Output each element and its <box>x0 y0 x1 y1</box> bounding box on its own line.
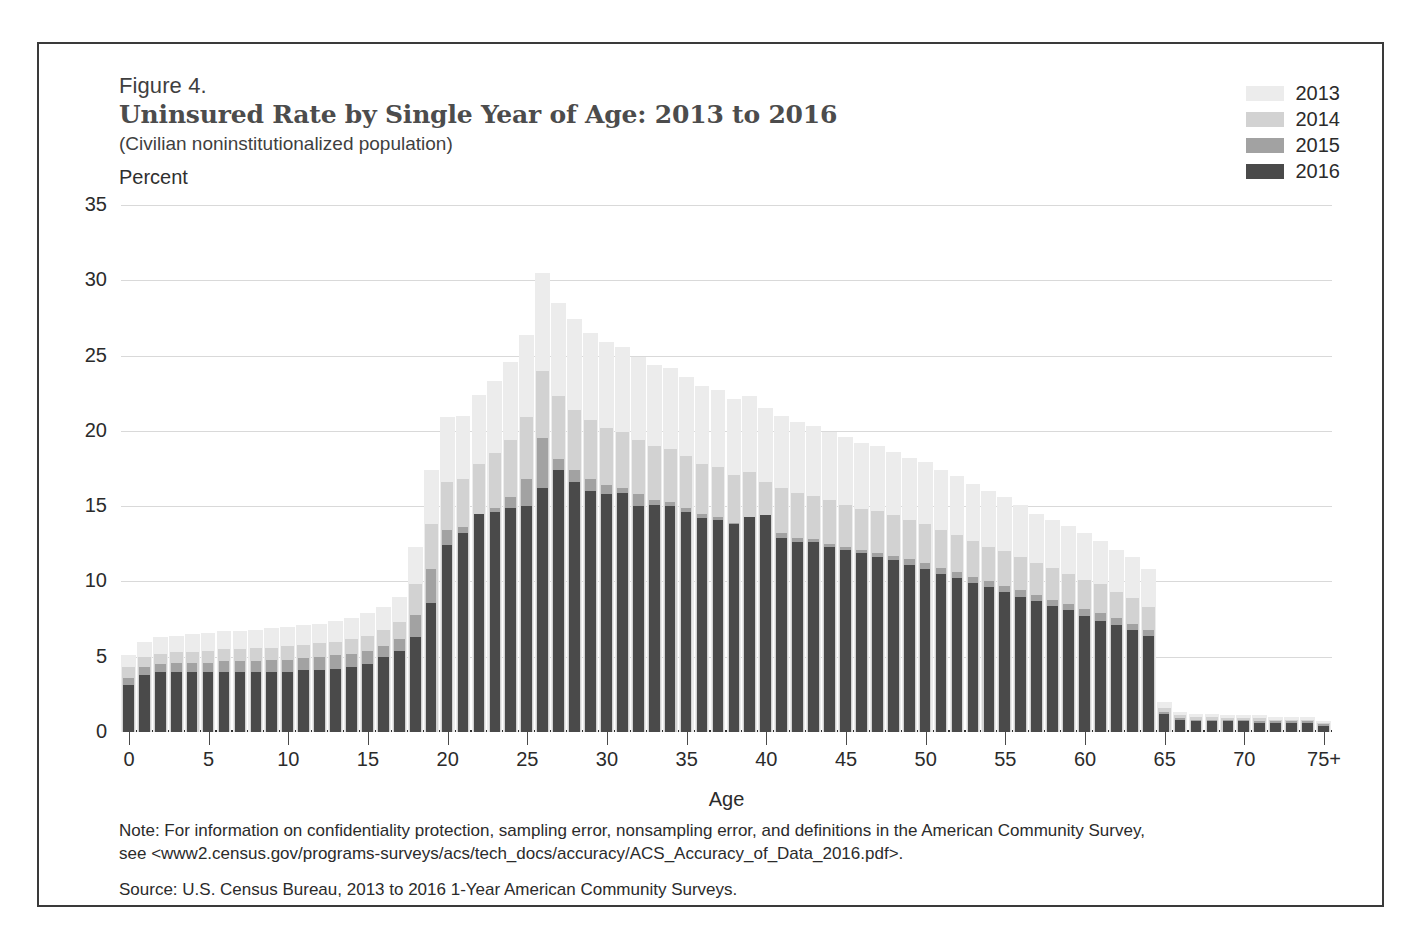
bar-group-age-16[interactable] <box>376 205 391 732</box>
bar-group-age-53[interactable] <box>966 205 981 732</box>
bar-2016-age-26 <box>537 488 548 732</box>
figure-subtitle: (Civilian noninstitutionalized populatio… <box>119 131 837 157</box>
bar-group-age-23[interactable] <box>487 205 502 732</box>
bar-group-age-22[interactable] <box>472 205 487 732</box>
bar-group-age-41[interactable] <box>774 205 789 732</box>
bar-group-age-44[interactable] <box>822 205 837 732</box>
x-tick-50 <box>926 732 927 745</box>
bar-group-age-13[interactable] <box>328 205 343 732</box>
bar-group-age-10[interactable] <box>280 205 295 732</box>
bar-group-age-62[interactable] <box>1109 205 1124 732</box>
bar-group-age-4[interactable] <box>185 205 200 732</box>
bar-group-age-34[interactable] <box>663 205 678 732</box>
bar-2016-age-33 <box>649 505 660 732</box>
bar-group-age-30[interactable] <box>599 205 614 732</box>
bar-group-age-69[interactable] <box>1220 205 1235 732</box>
x-tick-label-45: 45 <box>835 748 857 771</box>
bar-group-age-70[interactable] <box>1236 205 1251 732</box>
bar-group-age-17[interactable] <box>392 205 407 732</box>
bar-2016-age-3 <box>171 672 182 732</box>
bar-group-age-2[interactable] <box>153 205 168 732</box>
bar-group-age-29[interactable] <box>583 205 598 732</box>
plot-area: 05101520253035 <box>121 205 1332 732</box>
bar-group-age-68[interactable] <box>1205 205 1220 732</box>
legend-swatch-2013 <box>1246 86 1284 101</box>
bar-group-age-7[interactable] <box>233 205 248 732</box>
legend-item-2014[interactable]: 2014 <box>1246 108 1341 131</box>
bar-group-age-8[interactable] <box>248 205 263 732</box>
bar-group-age-65[interactable] <box>1157 205 1172 732</box>
bar-group-age-67[interactable] <box>1189 205 1204 732</box>
bar-2016-age-27 <box>553 470 564 732</box>
bar-group-age-33[interactable] <box>647 205 662 732</box>
bar-group-age-74[interactable] <box>1300 205 1315 732</box>
bar-group-age-46[interactable] <box>854 205 869 732</box>
bar-group-age-14[interactable] <box>344 205 359 732</box>
figure-number: Figure 4. <box>119 72 837 99</box>
bar-group-age-64[interactable] <box>1141 205 1156 732</box>
bar-group-age-36[interactable] <box>695 205 710 732</box>
bar-group-age-45[interactable] <box>838 205 853 732</box>
bar-group-age-19[interactable] <box>424 205 439 732</box>
legend-swatch-2014 <box>1246 112 1284 127</box>
bar-group-age-60[interactable] <box>1077 205 1092 732</box>
bar-group-age-20[interactable] <box>440 205 455 732</box>
bar-group-age-39[interactable] <box>742 205 757 732</box>
bar-group-age-57[interactable] <box>1029 205 1044 732</box>
bar-group-age-49[interactable] <box>902 205 917 732</box>
bar-group-age-27[interactable] <box>551 205 566 732</box>
bar-group-age-38[interactable] <box>727 205 742 732</box>
bar-group-age-48[interactable] <box>886 205 901 732</box>
bar-group-age-51[interactable] <box>934 205 949 732</box>
bar-group-age-1[interactable] <box>137 205 152 732</box>
bar-group-age-37[interactable] <box>711 205 726 732</box>
bar-group-age-11[interactable] <box>296 205 311 732</box>
bar-2016-age-43 <box>808 542 819 732</box>
bar-group-age-72[interactable] <box>1268 205 1283 732</box>
bar-group-age-52[interactable] <box>950 205 965 732</box>
legend-item-2013[interactable]: 2013 <box>1246 82 1341 105</box>
bar-group-age-31[interactable] <box>615 205 630 732</box>
bar-group-age-66[interactable] <box>1173 205 1188 732</box>
bar-group-age-32[interactable] <box>631 205 646 732</box>
bar-group-age-5[interactable] <box>201 205 216 732</box>
bar-group-age-54[interactable] <box>981 205 996 732</box>
legend-item-2015[interactable]: 2015 <box>1246 134 1341 157</box>
bar-group-age-21[interactable] <box>456 205 471 732</box>
bar-group-age-42[interactable] <box>790 205 805 732</box>
bar-group-age-28[interactable] <box>567 205 582 732</box>
bar-2016-age-55 <box>999 592 1010 732</box>
bar-group-age-56[interactable] <box>1013 205 1028 732</box>
bar-group-age-73[interactable] <box>1284 205 1299 732</box>
bar-group-age-71[interactable] <box>1252 205 1267 732</box>
bar-2016-age-39 <box>744 517 755 732</box>
bar-group-age-40[interactable] <box>758 205 773 732</box>
bar-2016-age-53 <box>968 583 979 732</box>
bar-group-age-47[interactable] <box>870 205 885 732</box>
bar-group-age-61[interactable] <box>1093 205 1108 732</box>
bar-group-age-9[interactable] <box>264 205 279 732</box>
bar-group-age-18[interactable] <box>408 205 423 732</box>
bar-group-age-6[interactable] <box>217 205 232 732</box>
bar-group-age-50[interactable] <box>918 205 933 732</box>
bar-group-age-0[interactable] <box>121 205 136 732</box>
legend-item-2016[interactable]: 2016 <box>1246 160 1341 183</box>
x-tick-label-50: 50 <box>915 748 937 771</box>
x-tick-label-35: 35 <box>676 748 698 771</box>
bar-group-age-59[interactable] <box>1061 205 1076 732</box>
bar-group-age-63[interactable] <box>1125 205 1140 732</box>
bar-group-age-75[interactable] <box>1316 205 1331 732</box>
bar-group-age-3[interactable] <box>169 205 184 732</box>
x-tick-15 <box>368 732 369 745</box>
bar-group-age-15[interactable] <box>360 205 375 732</box>
bar-group-age-58[interactable] <box>1045 205 1060 732</box>
bar-group-age-43[interactable] <box>806 205 821 732</box>
bar-group-age-26[interactable] <box>535 205 550 732</box>
bar-group-age-35[interactable] <box>679 205 694 732</box>
bar-group-age-25[interactable] <box>519 205 534 732</box>
bar-group-age-24[interactable] <box>503 205 518 732</box>
bar-2016-age-17 <box>394 651 405 732</box>
bar-group-age-55[interactable] <box>997 205 1012 732</box>
y-tick-label-10: 10 <box>47 569 107 592</box>
bar-group-age-12[interactable] <box>312 205 327 732</box>
